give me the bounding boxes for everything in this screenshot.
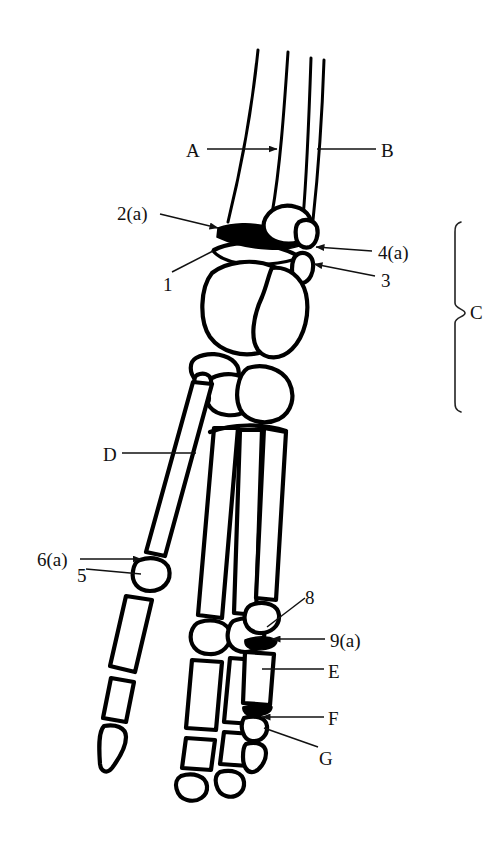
phalanx-d1-proximal [110,596,152,672]
structure-8-head [245,603,280,633]
bone-shaft-b-medial [313,60,324,220]
label-2a: 2(a) [117,204,148,223]
bone-shaft-a-lateral [228,50,258,222]
leader-G [264,728,318,747]
phalanx-d2-distal [176,774,207,800]
label-C: C [470,303,483,322]
leader-4a [316,247,372,251]
metacarpal-1 [146,382,212,556]
label-4a: 4(a) [378,243,409,262]
label-F: F [328,709,339,728]
phalanx-d2-middle [182,738,215,770]
phalanx-d1-middle [103,678,134,722]
label-6a: 6(a) [37,550,68,569]
skeleton-drawing [0,0,502,845]
digit-4-phalanges [242,603,279,772]
phalanx-d4-distal-G [243,743,266,772]
phalanx-d3-distal [216,771,244,797]
phalanx-d1-distal [99,725,126,771]
label-B: B [381,141,394,160]
anatomy-figure: AB2(a)4(a)13CD6(a)589(a)EFG [0,0,502,845]
label-1: 1 [163,275,173,294]
bracket-C [455,222,465,412]
label-5: 5 [77,566,87,585]
phalanx-d4-proximal-E [243,652,274,705]
label-E: E [328,662,340,681]
phalanx-d4-middle-F [242,717,267,741]
label-8: 8 [305,588,315,607]
bone-shaft-a-medial [272,52,288,214]
digit-1-phalanges [99,558,169,771]
label-3: 3 [381,271,391,290]
label-G: G [319,749,333,768]
phalanx-d1-proximal-head [133,558,170,591]
bone-shaft-b-lateral [303,58,311,218]
phalanx-d4-band [243,705,272,716]
label-A: A [186,141,200,160]
metacarpal-2 [198,428,238,618]
label-D: D [103,445,117,464]
phalanx-d2-head [191,620,231,654]
leader-3 [314,264,375,276]
carpal-distal-medial [237,366,292,422]
forearm-bones [228,50,324,222]
leader-2a [160,214,218,228]
phalanx-d2-proximal [186,660,222,730]
leader-1 [172,251,213,272]
structure-4a [296,220,318,248]
label-9a: 9(a) [330,631,361,650]
